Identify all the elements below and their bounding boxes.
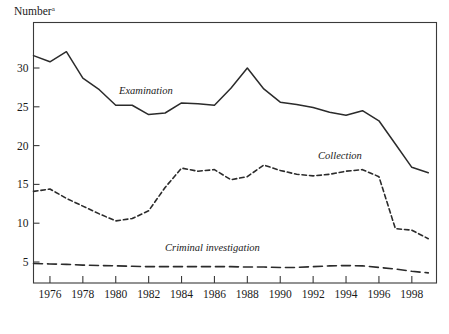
- series-lines: [34, 52, 429, 273]
- y-tick-label: 30: [17, 62, 29, 74]
- x-tick-label: 1982: [137, 288, 160, 300]
- x-tick-label: 1992: [302, 288, 325, 300]
- x-axis-ticks: 1976197819801982198419861988199019921994…: [38, 276, 423, 300]
- y-axis-ticks: 51015202530: [17, 62, 40, 268]
- y-tick-label: 15: [17, 178, 29, 190]
- x-tick-label: 1986: [203, 288, 226, 300]
- x-tick-label: 1998: [400, 288, 423, 300]
- chart-container: Numbera 51015202530 19761978198019821984…: [0, 0, 449, 334]
- series-line-collection: [34, 165, 429, 239]
- x-tick-label: 1984: [170, 288, 193, 300]
- y-tick-label: 25: [17, 101, 29, 113]
- line-chart: Numbera 51015202530 19761978198019821984…: [0, 0, 449, 334]
- series-line-examination: [34, 52, 429, 173]
- x-tick-label: 1996: [367, 288, 390, 300]
- x-tick-label: 1994: [335, 288, 358, 300]
- series-label-examination: Examination: [118, 85, 173, 96]
- series-label-collection: Collection: [318, 150, 362, 161]
- x-tick-label: 1988: [236, 288, 259, 300]
- y-tick-label: 5: [23, 256, 29, 268]
- x-tick-label: 1978: [71, 288, 94, 300]
- y-axis-title: Numbera: [14, 5, 56, 17]
- x-tick-label: 1976: [38, 288, 61, 300]
- y-tick-label: 20: [17, 140, 29, 152]
- series-line-criminal-investigation: [34, 264, 429, 273]
- series-label-criminal-investigation: Criminal investigation: [165, 242, 260, 253]
- x-tick-label: 1980: [104, 288, 127, 300]
- y-tick-label: 10: [17, 217, 29, 229]
- x-tick-label: 1990: [269, 288, 292, 300]
